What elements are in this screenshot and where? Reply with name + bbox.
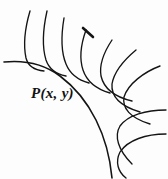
normal-line-7 xyxy=(124,66,160,124)
normal-line-4 xyxy=(81,30,110,93)
curve-group xyxy=(4,11,166,178)
figure-container: P(x, y) xyxy=(0,0,168,179)
evolute-main-curve xyxy=(4,62,112,178)
point-label-p: P(x, y) xyxy=(31,86,74,101)
curve-diagram-svg xyxy=(0,0,168,179)
normal-line-1 xyxy=(25,11,44,71)
